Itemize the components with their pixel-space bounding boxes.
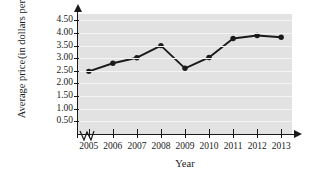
y-tick-label: 1.50 xyxy=(44,91,73,101)
gridline xyxy=(78,20,292,21)
line-chart: Average price (in dollars per gallon) 0.… xyxy=(0,0,315,182)
gridline xyxy=(78,71,292,72)
data-point-marker xyxy=(230,36,235,41)
y-tick-label: 4.00 xyxy=(44,28,73,38)
x-axis-line xyxy=(77,134,295,135)
y-tick-label: 3.00 xyxy=(44,53,73,63)
y-axis-title-line-1: Average price xyxy=(16,60,28,118)
x-axis-title: Year xyxy=(78,158,292,170)
x-axis-tick-labels: 200520062007200820092010201120122013 xyxy=(78,141,292,154)
series-markers xyxy=(86,33,284,74)
x-tick-label: 2013 xyxy=(264,141,298,152)
x-axis-arrow-icon xyxy=(294,130,302,138)
gridline xyxy=(78,121,292,122)
axis-break-zigzag-icon xyxy=(79,130,95,141)
y-axis-line xyxy=(77,10,78,138)
y-tick-label: 4.50 xyxy=(44,16,73,26)
y-tick-label: 2.00 xyxy=(44,79,73,89)
gridline xyxy=(78,96,292,97)
y-tick-label: 3.50 xyxy=(44,41,73,51)
data-point-marker xyxy=(278,35,283,40)
y-axis-title-line-2: (in dollars per gallon) xyxy=(16,0,28,59)
gridline xyxy=(78,109,292,110)
y-tick-label: 1.00 xyxy=(44,104,73,114)
gridline xyxy=(78,33,292,34)
y-tick-label: 0.50 xyxy=(44,117,73,127)
y-tick-label: 2.50 xyxy=(44,66,73,76)
y-axis-arrow-icon xyxy=(74,4,82,12)
y-axis-title: Average price (in dollars per gallon) xyxy=(5,0,39,103)
data-point-marker xyxy=(110,61,115,66)
gridline xyxy=(78,83,292,84)
gridline xyxy=(78,46,292,47)
y-axis-tick-labels: 0.501.001.502.002.503.003.504.004.50 xyxy=(44,14,73,134)
gridline xyxy=(78,58,292,59)
plot-area xyxy=(78,14,292,134)
